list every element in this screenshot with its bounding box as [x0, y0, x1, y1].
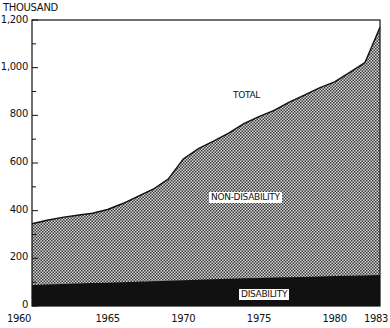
y-tick-label: 800	[0, 108, 28, 119]
x-tick-label: 1975	[239, 313, 279, 324]
y-axis-unit-label: THOUSAND	[3, 2, 58, 13]
y-tick-label: 1,200	[0, 14, 28, 25]
disability-label: DISABILITY	[239, 289, 289, 300]
x-tick-label: 1970	[163, 313, 203, 324]
y-tick-label: 600	[0, 156, 28, 167]
non-disability-label: NON-DISABILITY	[209, 192, 282, 203]
y-tick-label: 200	[0, 251, 28, 262]
non-disability-area	[32, 27, 380, 306]
total-label: TOTAL	[231, 90, 262, 101]
x-tick-label: 1965	[88, 313, 128, 324]
x-tick-label: 1983	[356, 313, 390, 324]
stacked-area-chart: THOUSAND 02004006008001,0001,200 1960196…	[0, 0, 390, 328]
x-tick-label: 1980	[315, 313, 355, 324]
x-tick-label: 1960	[0, 313, 39, 324]
y-tick-label: 0	[0, 299, 28, 310]
y-tick-label: 1,000	[0, 61, 28, 72]
y-tick-label: 400	[0, 204, 28, 215]
plot-area	[0, 0, 390, 328]
